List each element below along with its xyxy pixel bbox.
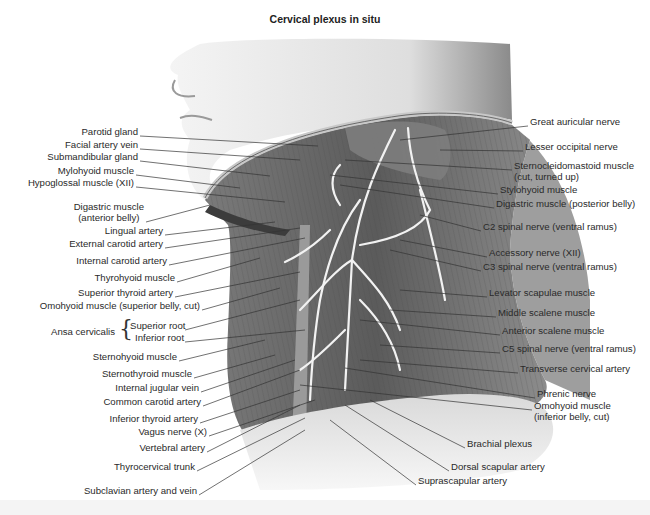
label-thyrocervical-trunk: Thyrocervical trunk — [114, 461, 195, 472]
label-levator-scapulae: Levator scapulae muscle — [489, 287, 595, 298]
label-thyrohyoid-muscle: Thyrohyoid muscle — [94, 272, 175, 283]
label-inferior-thyroid-artery: Inferior thyroid artery — [109, 413, 198, 424]
label-dorsal-scapular-artery: Dorsal scapular artery — [451, 461, 545, 472]
label-lesser-occipital-nerve: Lesser occipital nerve — [525, 141, 618, 152]
label-great-auricular-nerve: Great auricular nerve — [530, 116, 620, 127]
label-middle-scalene: Middle scalene muscle — [498, 307, 595, 318]
label-ansa-inferior-root: Inferior root — [135, 332, 184, 343]
bottom-margin — [0, 500, 650, 515]
label-phrenic-nerve: Phrenic nerve — [537, 388, 596, 399]
label-sternothyroid-muscle: Sternothyroid muscle — [102, 368, 192, 379]
label-facial-artery-vein: Facial artery vein — [65, 139, 138, 150]
label-subclavian-artery-vein: Subclavian artery and vein — [84, 485, 197, 496]
label-suprascapular-artery: Suprascapular artery — [418, 475, 507, 486]
label-c2-spinal-nerve: C2 spinal nerve (ventral ramus) — [483, 221, 617, 232]
label-internal-jugular-vein: Internal jugular vein — [115, 382, 199, 393]
label-stylohyoid-muscle: Stylohyoid muscle — [500, 184, 577, 195]
label-digastric-anterior: Digastric muscle(anterior belly) — [74, 201, 144, 223]
label-omohyoid-inferior: Omohyoid muscle(inferior belly, cut) — [534, 400, 611, 422]
label-submandibular-gland: Submandibular gland — [47, 151, 138, 162]
label-brachial-plexus: Brachial plexus — [467, 438, 532, 449]
label-c3-spinal-nerve: C3 spinal nerve (ventral ramus) — [483, 261, 617, 272]
label-internal-carotid-artery: Internal carotid artery — [76, 255, 167, 266]
label-superior-thyroid-artery: Superior thyroid artery — [78, 287, 173, 298]
label-mylohyoid-muscle: Mylohyoid muscle — [58, 165, 134, 176]
label-hypoglossal-muscle: Hypoglossal muscle (XII) — [28, 177, 134, 188]
label-lingual-artery: Lingual artery — [105, 225, 163, 236]
label-omohyoid-superior: Omohyoid muscle (superior belly, cut) — [40, 300, 200, 311]
label-vagus-nerve: Vagus nerve (X) — [138, 426, 207, 437]
label-common-carotid-artery: Common carotid artery — [103, 396, 201, 407]
label-accessory-nerve: Accessory nerve (XII) — [489, 247, 581, 258]
label-sternohyoid-muscle: Sternohyoid muscle — [93, 351, 177, 362]
label-ansa-superior-root: Superior root — [130, 320, 185, 331]
label-transverse-cervical-artery: Transverse cervical artery — [520, 363, 630, 374]
label-anterior-scalene: Anterior scalene muscle — [502, 325, 604, 336]
label-c5-spinal-nerve: C5 spinal nerve (ventral ramus) — [502, 343, 636, 354]
label-ansa-cervicalis: Ansa cervicalis — [51, 326, 115, 337]
label-parotid-gland: Parotid gland — [81, 126, 138, 137]
label-sternocleidomastoid: Sternocleidomastoid muscle(cut, turned u… — [514, 160, 634, 182]
label-external-carotid-artery: External carotid artery — [69, 238, 163, 249]
label-digastric-posterior: Digastric muscle (posterior belly) — [496, 198, 635, 209]
label-vertebral-artery: Vertebral artery — [139, 442, 205, 453]
